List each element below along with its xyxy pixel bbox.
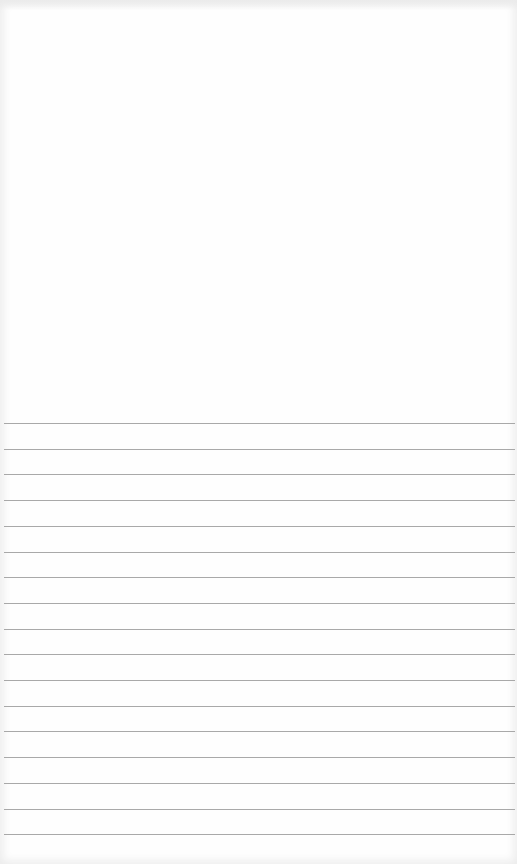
ruled-line: [4, 603, 515, 604]
paper-sheet: [0, 0, 517, 864]
paper-top-edge: [0, 0, 517, 10]
ruled-line: [4, 577, 515, 578]
ruled-line: [4, 552, 515, 553]
ruled-line: [4, 423, 515, 424]
ruled-line: [4, 500, 515, 501]
ruled-line: [4, 731, 515, 732]
ruled-line: [4, 680, 515, 681]
ruled-line: [4, 706, 515, 707]
ruled-line: [4, 654, 515, 655]
ruled-line: [4, 757, 515, 758]
ruled-line: [4, 629, 515, 630]
ruled-line: [4, 809, 515, 810]
ruled-line: [4, 449, 515, 450]
ruled-line: [4, 834, 515, 835]
ruled-line: [4, 474, 515, 475]
ruled-line: [4, 783, 515, 784]
ruled-line: [4, 526, 515, 527]
